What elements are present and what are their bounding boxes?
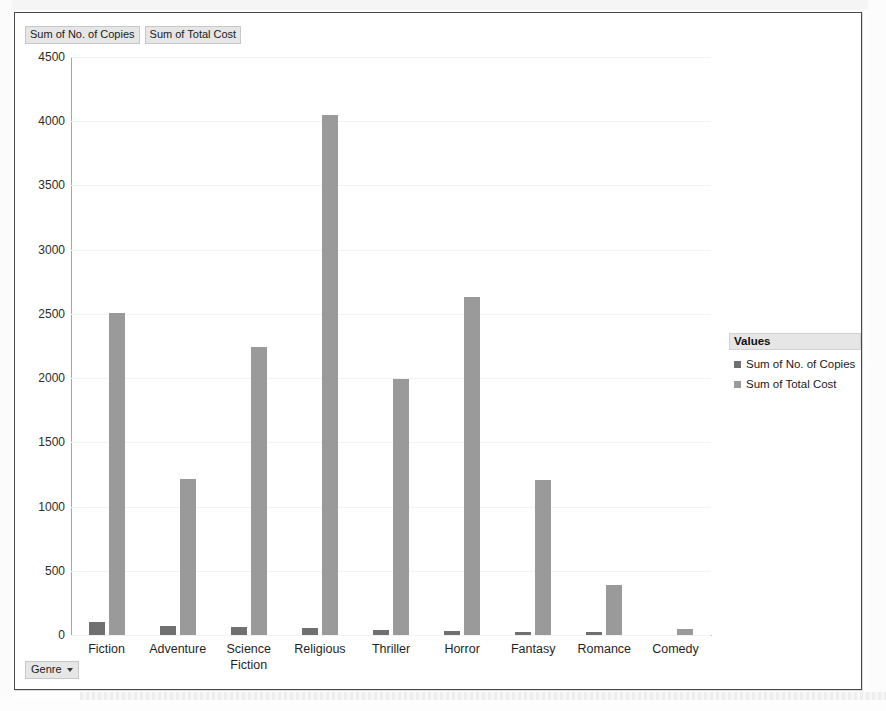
x-tick-label: Fiction xyxy=(71,641,142,657)
y-tick-label: 4500 xyxy=(19,50,65,64)
bar-copies[interactable] xyxy=(586,632,602,635)
axis-field-button-genre[interactable]: Genre xyxy=(25,661,79,679)
x-tick-label: Fantasy xyxy=(498,641,569,657)
scan-artifact-bottom-2 xyxy=(0,700,886,711)
bar-cost[interactable] xyxy=(677,629,693,635)
bar-group xyxy=(586,57,622,635)
bar-copies[interactable] xyxy=(444,631,460,635)
legend-item-label: Sum of No. of Copies xyxy=(746,358,855,370)
scan-artifact-top xyxy=(0,0,886,10)
bar-copies[interactable] xyxy=(515,632,531,635)
y-tick-label: 3000 xyxy=(19,243,65,257)
y-tick-label: 1500 xyxy=(19,435,65,449)
bar-group xyxy=(373,57,409,635)
y-tick-label: 3500 xyxy=(19,178,65,192)
bar-copies[interactable] xyxy=(302,628,318,635)
bar-copies[interactable] xyxy=(231,627,247,635)
y-tick-label: 0 xyxy=(19,628,65,642)
bar-cost[interactable] xyxy=(393,379,409,635)
bar-cost[interactable] xyxy=(322,115,338,635)
value-field-button-sum-of-total-cost[interactable]: Sum of Total Cost xyxy=(145,26,242,44)
x-tick-label: Thriller xyxy=(355,641,426,657)
bar-group xyxy=(444,57,480,635)
gridline xyxy=(71,635,711,636)
bar-group xyxy=(160,57,196,635)
value-field-button-sum-of-no-of-copies[interactable]: Sum of No. of Copies xyxy=(25,26,140,44)
legend-swatch-icon-copies xyxy=(734,361,741,368)
bar-cost[interactable] xyxy=(464,297,480,635)
x-tick-label: Romance xyxy=(569,641,640,657)
bar-cost[interactable] xyxy=(535,480,551,635)
y-tick-label: 500 xyxy=(19,564,65,578)
y-axis-tick-labels: 050010001500200025003000350040004500 xyxy=(15,57,65,635)
bar-group xyxy=(657,57,693,635)
legend: Values Sum of No. of Copies Sum of Total… xyxy=(729,331,871,390)
y-tick-label: 2500 xyxy=(19,307,65,321)
bar-copies[interactable] xyxy=(160,626,176,635)
axis-field-button-label: Genre xyxy=(31,663,62,676)
bar-group xyxy=(231,57,267,635)
legend-item-sum-of-total-cost[interactable]: Sum of Total Cost xyxy=(729,378,871,390)
chevron-down-icon xyxy=(67,668,73,672)
legend-title-values[interactable]: Values xyxy=(729,333,861,350)
x-tick-label: Horror xyxy=(427,641,498,657)
bar-group xyxy=(515,57,551,635)
bar-copies[interactable] xyxy=(373,630,389,635)
bar-group xyxy=(89,57,125,635)
bar-cost[interactable] xyxy=(109,313,125,635)
bar-cost[interactable] xyxy=(180,479,196,635)
bar-copies[interactable] xyxy=(89,622,105,635)
x-tick-label: Science Fiction xyxy=(213,641,284,673)
x-axis-tick-labels: FictionAdventureScience FictionReligious… xyxy=(71,641,712,689)
legend-item-sum-of-no-of-copies[interactable]: Sum of No. of Copies xyxy=(729,358,871,370)
bar-group xyxy=(302,57,338,635)
y-tick-label: 2000 xyxy=(19,371,65,385)
plot-area xyxy=(71,57,711,635)
value-field-button-group: Sum of No. of Copies Sum of Total Cost xyxy=(25,26,241,44)
scan-artifact-left xyxy=(0,0,12,711)
x-tick-label: Adventure xyxy=(142,641,213,657)
bars-layer xyxy=(71,57,711,635)
legend-item-label: Sum of Total Cost xyxy=(746,378,837,390)
y-tick-label: 4000 xyxy=(19,114,65,128)
bar-cost[interactable] xyxy=(606,585,622,635)
x-tick-label: Comedy xyxy=(640,641,711,657)
y-tick-label: 1000 xyxy=(19,500,65,514)
x-tick-label: Religious xyxy=(284,641,355,657)
pivot-chart-frame: Sum of No. of Copies Sum of Total Cost 0… xyxy=(14,12,862,690)
bar-cost[interactable] xyxy=(251,347,267,635)
legend-swatch-icon-cost xyxy=(734,381,741,388)
